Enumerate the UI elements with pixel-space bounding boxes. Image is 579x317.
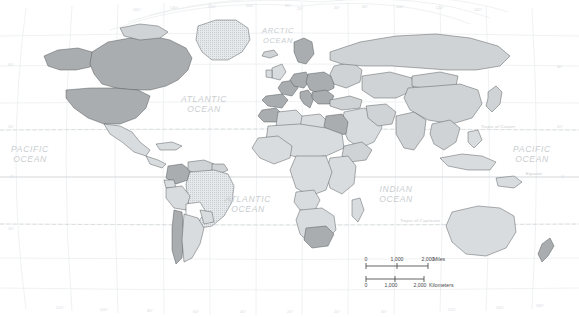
longitude-top-label-5: 20° bbox=[297, 6, 304, 11]
scale-km-tick-2: 2,000 bbox=[414, 282, 427, 288]
latitude-label-0: 60° bbox=[8, 62, 15, 67]
world-map-container: ARCTICOCEANATLANTICOCEANATLANTICOCEANPAC… bbox=[0, 0, 579, 317]
longitude-top-label-0: 160° bbox=[133, 7, 142, 12]
longitude-bottom-label-6: 20° bbox=[334, 309, 341, 314]
scale-km-tick-1: 1,000 bbox=[385, 282, 398, 288]
ocean-label-pacific-ocean-west: PACIFICOCEAN bbox=[513, 144, 551, 164]
longitude-top-label-6: 40° bbox=[334, 5, 341, 10]
longitude-top-label-8: 100° bbox=[396, 4, 405, 9]
longitude-bottom-label-5: 20° bbox=[287, 309, 294, 314]
ocean-label-atlantic-ocean-south: ATLANTICOCEAN bbox=[224, 194, 271, 214]
longitude-top-label-7: 60° bbox=[362, 4, 369, 9]
longitude-bottom-label-1: 100° bbox=[100, 307, 109, 312]
longitude-bottom-label-7: 60° bbox=[381, 309, 388, 314]
longitude-bottom-label-9: 160° bbox=[496, 305, 505, 310]
scale-km-tick-0: 0 bbox=[365, 282, 368, 288]
latitude-label-4: 40° bbox=[557, 64, 564, 69]
longitude-top-label-4: 80° bbox=[285, 3, 292, 8]
longitude-top-label-3: 100° bbox=[246, 3, 255, 8]
longitude-bottom-label-8: 120° bbox=[448, 307, 457, 312]
longitude-top-label-1: 140° bbox=[170, 5, 179, 10]
latitude-label-3: 30° bbox=[8, 226, 15, 231]
ocean-label-atlantic-ocean-north: ATLANTICOCEAN bbox=[180, 94, 227, 114]
scale-miles-tick-1: 1,000 bbox=[391, 256, 404, 262]
latitude-label-6: 0° bbox=[561, 174, 565, 179]
longitude-bottom-label-4: 40° bbox=[240, 309, 247, 314]
scale-km-unit-label: Kilometers bbox=[429, 282, 454, 288]
ocean-label-pacific-ocean-east: PACIFICOCEAN bbox=[11, 144, 49, 164]
scale-miles-unit-label: Miles bbox=[433, 256, 446, 262]
longitude-top-label-9: 120° bbox=[436, 5, 445, 10]
label-equator: Equator bbox=[526, 171, 543, 176]
longitude-bottom-label-10: 180° bbox=[536, 303, 545, 308]
latitude-label-5: 20° bbox=[557, 124, 564, 129]
latitude-label-2: 0° bbox=[10, 174, 14, 179]
world-map-canvas: ARCTICOCEANATLANTICOCEANATLANTICOCEANPAC… bbox=[0, 0, 579, 317]
label-tropic-of-capricorn: Tropic of Capricorn bbox=[400, 218, 440, 223]
scale-miles-tick-0: 0 bbox=[365, 256, 368, 262]
ocean-label-arctic-ocean: ARCTICOCEAN bbox=[261, 26, 294, 45]
country-ireland bbox=[266, 70, 272, 78]
longitude-bottom-label-3: 60° bbox=[193, 309, 200, 314]
longitude-top-label-2: 120° bbox=[208, 4, 217, 9]
latitude-label-1: 30° bbox=[8, 124, 15, 129]
label-tropic-of-cancer: Tropic of Cancer bbox=[481, 124, 516, 129]
longitude-top-label-10: 160° bbox=[474, 7, 483, 12]
ocean-label-indian-ocean: INDIANOCEAN bbox=[379, 184, 413, 204]
longitude-bottom-label-0: 120° bbox=[56, 305, 65, 310]
longitude-bottom-label-2: 80° bbox=[147, 308, 154, 313]
